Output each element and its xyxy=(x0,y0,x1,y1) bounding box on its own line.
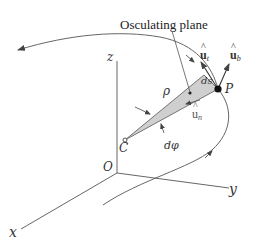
hat-symbol: ^ xyxy=(231,42,236,52)
dphi-arrow-lower xyxy=(161,124,164,133)
vector-subscript: t xyxy=(207,54,209,63)
space-curve-arrow-near-p xyxy=(186,55,194,62)
osculating-plane-leader xyxy=(172,31,190,92)
x-axis xyxy=(21,173,117,229)
binormal-vector-label: ^ ub xyxy=(230,49,241,63)
vector-subscript: n xyxy=(198,113,202,122)
osculating-plane-diagram: Osculating plane z y x O C P ρ ds dφ ^ u… xyxy=(0,0,256,252)
vector-subscript: b xyxy=(237,54,241,63)
origin-label: O xyxy=(103,161,113,173)
osculating-plane-label: Osculating plane xyxy=(120,18,208,31)
radius-rho-label: ρ xyxy=(163,85,170,97)
point-p-marker xyxy=(214,85,221,92)
z-axis-label: z xyxy=(107,51,113,63)
x-axis-label: x xyxy=(9,225,17,239)
dphi-arrow-upper xyxy=(135,107,150,114)
point-p-label: P xyxy=(225,83,233,95)
space-curve-upper xyxy=(18,34,218,89)
arc-length-ds-label: ds xyxy=(201,76,213,86)
hat-symbol: ^ xyxy=(193,101,198,111)
hat-symbol: ^ xyxy=(201,42,206,52)
tangent-vector-label: ^ ut xyxy=(200,49,209,63)
angle-dphi-label: dφ xyxy=(164,140,179,151)
y-axis-label: y xyxy=(229,182,237,196)
y-axis xyxy=(117,173,229,188)
center-c-label: C xyxy=(119,142,128,154)
diagram-graphics xyxy=(0,0,256,252)
normal-vector-label: ^ un xyxy=(192,108,202,122)
